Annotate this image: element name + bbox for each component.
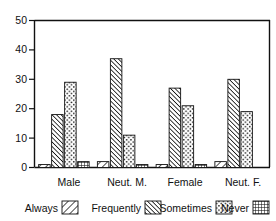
x-tick-label-female: Female (167, 176, 202, 188)
x-tick-label-neut-f: Neut. F. (225, 176, 261, 188)
bar-chart: 50 40 30 20 10 0 (0, 0, 276, 221)
y-axis-labels: 50 40 30 20 10 0 (15, 14, 27, 173)
bar-frequently-male (52, 115, 64, 168)
legend-label-sometimes: Sometimes (159, 202, 212, 214)
legend-label-always: Always (25, 202, 58, 214)
bar-group (97, 59, 148, 168)
y-tick-label: 40 (15, 43, 27, 55)
bar-never-male (78, 162, 90, 168)
bar-group (39, 82, 89, 167)
bar-never-female (195, 165, 207, 168)
bar-sometimes-neut-m (123, 135, 135, 167)
legend-item-never: Never (221, 201, 269, 214)
legend-item-frequently: Frequently (91, 201, 161, 214)
y-tick-label: 10 (15, 132, 27, 144)
legend-label-frequently: Frequently (91, 202, 141, 214)
bar-never-neut-m (136, 165, 148, 168)
legend-label-never: Never (221, 202, 250, 214)
bar-always-female (156, 165, 168, 168)
chart-canvas: 50 40 30 20 10 0 (0, 0, 276, 221)
bars-layer (39, 59, 253, 168)
bar-sometimes-male (65, 82, 77, 167)
y-tick-label: 30 (15, 73, 27, 85)
bar-always-neut-f (215, 162, 227, 168)
bar-frequently-female (169, 88, 181, 167)
legend-swatch-never (253, 201, 269, 214)
bar-always-male (39, 165, 51, 168)
bar-group (156, 88, 207, 167)
bar-always-neut-m (97, 162, 109, 168)
bar-sometimes-neut-f (241, 112, 253, 168)
bar-frequently-neut-f (228, 79, 240, 167)
legend-swatch-always (62, 201, 78, 214)
bar-frequently-neut-m (110, 59, 122, 168)
y-tick-label: 20 (15, 102, 27, 114)
bar-sometimes-female (182, 106, 194, 168)
bar-group (215, 79, 253, 167)
x-axis-labels: Male Neut. M. Female Neut. F. (58, 176, 261, 188)
legend-item-always: Always (25, 201, 78, 214)
x-tick-label-neut-m: Neut. M. (107, 176, 147, 188)
x-tick-label-male: Male (58, 176, 81, 188)
chart-legend: Always Frequently Sometimes Never (25, 201, 269, 214)
y-tick-label: 0 (21, 161, 27, 173)
y-tick-label: 50 (15, 14, 27, 26)
